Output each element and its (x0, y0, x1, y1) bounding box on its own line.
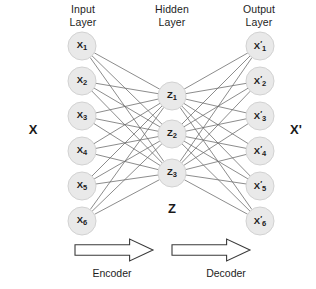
decoder-edge (186, 137, 247, 149)
decoder-edge (180, 58, 252, 162)
encoder-edge (96, 137, 158, 149)
decoder-edge (186, 83, 246, 93)
decoder-edge (184, 88, 248, 127)
decoder-edge (184, 53, 248, 89)
encoder-edge (94, 53, 160, 89)
decoder-edge (182, 56, 250, 124)
encoder-edge (92, 91, 162, 163)
output-node-1 (246, 32, 274, 60)
flow-arrows (75, 239, 250, 261)
output-node-2 (246, 67, 274, 95)
decoder-edge (182, 144, 250, 211)
encoder-edge (92, 56, 162, 124)
hidden-node-3 (158, 159, 186, 187)
input-node-6 (68, 207, 96, 235)
input-layer-title: Input Layer (52, 3, 114, 28)
input-node-1 (68, 32, 96, 60)
decoder-edge (182, 91, 251, 163)
input-node-2 (68, 67, 96, 95)
output-node-6 (246, 207, 274, 235)
encoder-edge (94, 88, 160, 127)
decoder-edge (184, 180, 247, 215)
encoder-edge (90, 57, 164, 161)
encoder-edges (90, 53, 164, 215)
decoder-edge (186, 175, 246, 184)
input-vector-label: X (20, 122, 46, 137)
encoder-edge (92, 144, 162, 212)
encoder-edge (92, 106, 162, 176)
encoder-edge (96, 99, 159, 113)
encoder-edge (96, 175, 158, 184)
output-layer-title: Output Layer (228, 3, 290, 28)
autoencoder-diagram: Input Layer Hidden Layer Output Layer X … (0, 0, 316, 289)
input-node-3 (68, 102, 96, 130)
hidden-node-1 (158, 82, 186, 110)
output-node-3 (246, 102, 274, 130)
decoder-edge (182, 106, 250, 176)
encoder-label: Encoder (62, 267, 162, 279)
output-node-5 (246, 172, 274, 200)
decoder-arrow (172, 239, 250, 261)
input-node-5 (68, 172, 96, 200)
output-vector-label: X' (283, 122, 309, 137)
latent-vector-label: Z (159, 201, 185, 216)
hidden-node-2 (158, 120, 186, 148)
decoder-label: Decoder (176, 267, 276, 279)
output-node-4 (246, 137, 274, 165)
input-node-4 (68, 137, 96, 165)
hidden-layer-title: Hidden Layer (141, 3, 203, 28)
network-graphic (0, 0, 316, 289)
encoder-edge (96, 83, 158, 93)
encoder-arrow (75, 239, 153, 261)
encoder-edge (90, 107, 164, 209)
decoder-edges (180, 53, 252, 214)
encoder-edge (94, 180, 159, 215)
